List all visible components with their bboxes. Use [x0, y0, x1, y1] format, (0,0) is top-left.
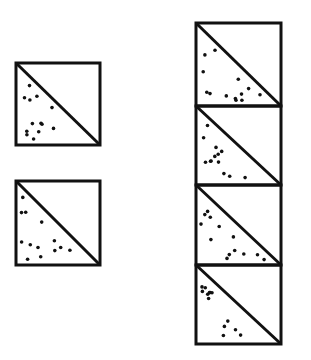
diagonal-line — [196, 106, 281, 185]
stipple-shading — [23, 84, 56, 141]
column-block-3 — [196, 185, 281, 265]
single-block-1 — [16, 63, 100, 145]
diagonal-line — [196, 265, 281, 344]
column-block-1 — [196, 23, 281, 106]
column-block-4 — [196, 265, 281, 344]
quilt-diagram — [0, 0, 311, 360]
stipple-shading — [200, 285, 242, 337]
diagonal-line — [16, 63, 100, 145]
diagonal-line — [196, 185, 281, 265]
column-block-2 — [196, 106, 281, 185]
single-block-2 — [16, 181, 100, 265]
diagonal-line — [16, 181, 100, 265]
